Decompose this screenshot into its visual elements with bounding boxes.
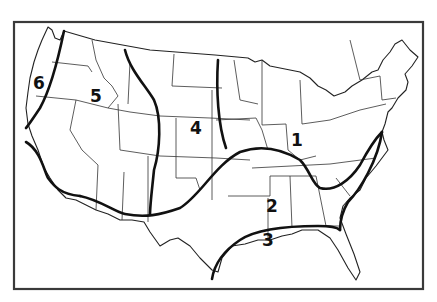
zone-line-gulf — [212, 226, 340, 279]
zone-line-4-east — [217, 60, 226, 148]
us-outline — [26, 27, 418, 280]
zone-label-5: 5 — [90, 88, 102, 105]
zone-label-3: 3 — [262, 232, 274, 249]
us-zone-map — [0, 0, 437, 302]
zone-label-6: 6 — [33, 75, 45, 92]
zone-label-2: 2 — [266, 198, 278, 215]
zone-label-1: 1 — [291, 132, 303, 149]
zone-line-southern — [80, 132, 382, 216]
zone-line-5-4 — [125, 50, 159, 215]
zone-line-6-5 — [26, 31, 64, 128]
zone-label-4: 4 — [190, 120, 202, 137]
zone-boundaries — [26, 31, 382, 279]
